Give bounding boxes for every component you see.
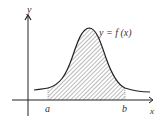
bound-b-label: b [122, 103, 127, 114]
y-axis-label: y [26, 4, 32, 15]
x-axis-label: x [149, 106, 154, 116]
area-under-curve-diagram: y x y = f (x) a b [0, 0, 155, 123]
shaded-region [48, 28, 125, 100]
curve-label: y = f (x) [98, 27, 132, 39]
bound-a-label: a [45, 103, 50, 114]
